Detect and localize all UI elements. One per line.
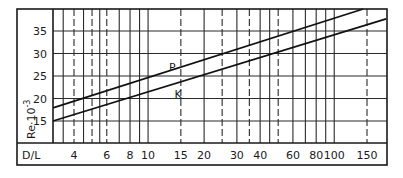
x-tick-label: 100 (324, 149, 345, 162)
x-tick-label: 6 (103, 149, 110, 162)
x-tick-label: 10 (141, 149, 155, 162)
series-label-K: K (175, 88, 183, 101)
y-tick-label: 35 (33, 25, 47, 38)
chart-frame (17, 9, 387, 165)
series-label-P: P (169, 61, 176, 74)
horizontal-gridlines (53, 31, 387, 121)
series-line-K (53, 19, 386, 121)
x-tick-label: 15 (174, 149, 188, 162)
y-tick-label: 25 (33, 70, 47, 83)
x-tick-label: 20 (197, 149, 211, 162)
data-series (53, 9, 386, 121)
chart: 1520253035 46810152030406080100150 PK D/… (0, 0, 403, 178)
x-tick-label: 30 (230, 149, 244, 162)
y-tick-label: 30 (33, 48, 47, 61)
x-tick-label: 4 (71, 149, 78, 162)
outer-border (17, 9, 387, 165)
svg-text:Re·10-3: Re·10-3 (23, 100, 38, 139)
y-axis-label-base: Re·10 (25, 108, 38, 139)
x-tick-label: 40 (253, 149, 267, 162)
x-tick-label: 80 (309, 149, 323, 162)
y-tick-label: 20 (33, 93, 47, 106)
x-tick-label: 150 (357, 149, 378, 162)
x-axis-label: D/L (22, 149, 41, 162)
x-tick-label: 60 (286, 149, 300, 162)
y-axis-label-exponent: -3 (23, 100, 32, 108)
x-tick-label: 8 (127, 149, 134, 162)
x-tick-labels: 46810152030406080100150 (71, 149, 378, 162)
y-axis-label: Re·10-3 (23, 100, 38, 139)
